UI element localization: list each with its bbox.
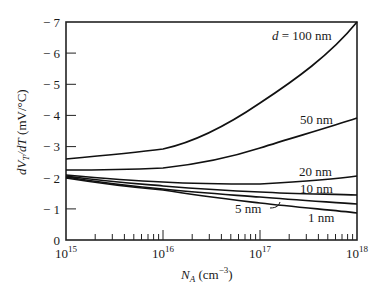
label-100nm: d = 100 nm bbox=[272, 28, 332, 43]
x-axis-title: NA (cm−3) bbox=[180, 265, 233, 284]
x-ticks bbox=[95, 230, 352, 240]
y-tick-2: − 2 bbox=[43, 171, 60, 186]
label-5nm: 5 nm bbox=[235, 201, 261, 216]
y-tick-5: − 5 bbox=[43, 77, 60, 92]
x-tick-labels: 1015 1016 1017 1018 bbox=[55, 244, 369, 261]
y-tick-1: − 1 bbox=[43, 202, 60, 217]
chart-canvas: 0 − 1 − 2 − 3 − 4 − 5 − 6 − 7 bbox=[0, 0, 388, 286]
y-tick-3: − 3 bbox=[43, 139, 60, 154]
y-tick-4: − 4 bbox=[43, 108, 61, 123]
x-tick-1e16: 1016 bbox=[152, 244, 175, 261]
label-20nm: 20 nm bbox=[299, 164, 332, 179]
y-tick-labels: 0 − 1 − 2 − 3 − 4 − 5 − 6 − 7 bbox=[43, 15, 61, 248]
x-tick-1e15: 1015 bbox=[55, 244, 78, 261]
label-10nm: 10 nm bbox=[300, 181, 333, 196]
y-ticks bbox=[66, 53, 76, 209]
y-axis-title: dVT/dT (mV/°C) bbox=[14, 89, 31, 175]
y-tick-7: − 7 bbox=[43, 15, 61, 30]
y-tick-6: − 6 bbox=[43, 46, 61, 61]
label-1nm: 1 nm bbox=[308, 210, 334, 225]
x-tick-1e17: 1017 bbox=[249, 244, 272, 261]
label-50nm: 50 nm bbox=[300, 112, 333, 127]
x-tick-1e18: 1018 bbox=[346, 244, 369, 261]
